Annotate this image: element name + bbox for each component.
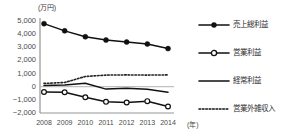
data-point [62,90,67,95]
data-point [145,99,150,104]
data-point [124,100,129,105]
data-point [145,42,150,47]
legend-label: 営業外雑収入 [233,102,274,113]
legend-item[interactable]: 経常利益 [198,73,261,85]
legend-swatch-solid [198,73,230,85]
legend-label: 営業利益 [233,46,261,57]
legend-label: 売上総利益 [233,18,268,29]
data-point [124,40,129,45]
legend-item[interactable]: 営業外雑収入 [198,101,274,113]
data-point [83,95,88,100]
data-point [104,38,109,43]
data-point [62,28,67,33]
legend-marker [211,50,216,55]
data-point [104,99,109,104]
legend-marker [211,22,216,27]
legend-swatch-dotted [198,101,230,113]
legend-label: 経常利益 [233,74,261,85]
legend-swatch-solid-open-circle [198,45,230,57]
data-point [83,34,88,39]
legend-swatch-solid-filled-circle [198,17,230,29]
data-point [42,21,47,26]
legend-item[interactable]: 営業利益 [198,45,261,57]
legend-item[interactable]: 売上総利益 [198,17,268,29]
data-point [42,90,47,95]
series-line-3 [44,75,168,84]
data-point [166,46,171,51]
data-point [166,104,171,109]
chart-container: (万円) −2,000−1,00001,0002,0003,0004,0005,… [0,0,294,140]
